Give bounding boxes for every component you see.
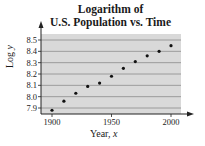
data-point (74, 92, 77, 95)
data-point (98, 81, 101, 84)
data-point (86, 85, 89, 88)
x-tick-label: 1950 (103, 117, 120, 127)
data-point (110, 75, 113, 78)
y-tick-label: 8.5 (26, 35, 37, 45)
y-axis-arrow-icon (39, 21, 44, 28)
data-point (169, 44, 172, 47)
y-tick-label: 8.1 (26, 80, 37, 90)
x-tick-label: 1900 (44, 117, 61, 127)
scatter-plot: 7.98.08.18.28.38.48.5190019502000 (0, 0, 205, 146)
data-point (146, 54, 149, 57)
y-tick-label: 8.2 (26, 69, 37, 79)
x-tick-label: 2000 (163, 117, 180, 127)
data-point (62, 100, 65, 103)
y-tick-label: 8.0 (26, 92, 37, 102)
data-point (134, 60, 137, 63)
x-axis-label: Year, x (90, 128, 117, 139)
data-point (158, 50, 161, 53)
y-tick-label: 7.9 (26, 103, 37, 113)
x-axis-arrow-icon (187, 112, 194, 117)
data-point (122, 67, 125, 70)
y-tick-label: 8.4 (26, 46, 37, 56)
data-point (50, 109, 53, 112)
y-tick-label: 8.3 (26, 58, 37, 68)
y-axis-label: Log y (4, 45, 15, 68)
